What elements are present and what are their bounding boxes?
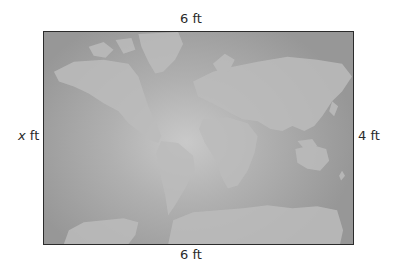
left-dimension-label: x ft <box>18 129 39 143</box>
right-dimension-label: 4 ft <box>358 129 380 143</box>
world-map-rectangle <box>43 31 354 245</box>
north-america-shape <box>54 60 161 143</box>
bottom-dimension-label: 6 ft <box>180 248 202 262</box>
antarctica-shape <box>168 205 343 244</box>
greenland-shape <box>138 32 183 74</box>
south-america-shape <box>156 141 195 215</box>
australia-shape <box>295 145 329 171</box>
world-map-illustration <box>44 32 353 244</box>
africa-shape <box>199 117 258 188</box>
top-dimension-label: 6 ft <box>180 12 202 26</box>
